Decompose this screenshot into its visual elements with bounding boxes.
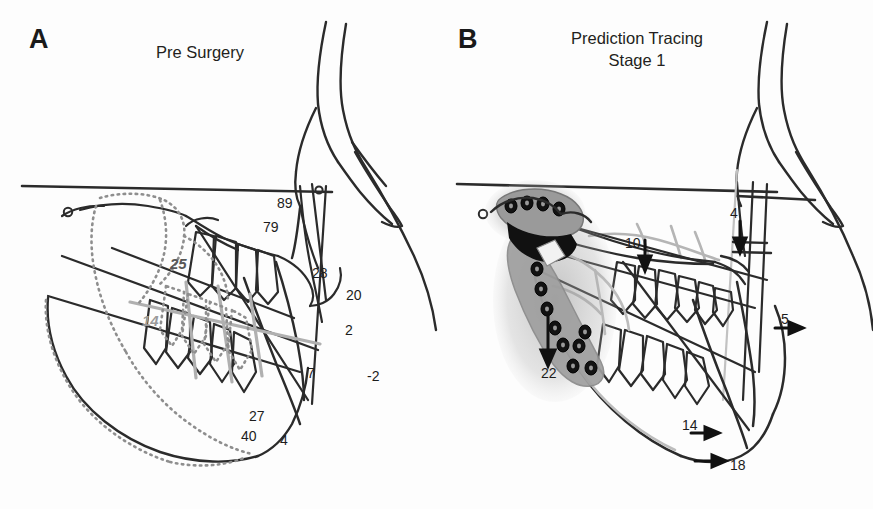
measurement-label: 20 — [346, 288, 362, 302]
measurement-label: 22 — [541, 366, 557, 380]
measurement-label: 25 — [170, 256, 187, 271]
measurement-label: 5 — [781, 312, 789, 326]
panel-b-tracing — [437, 0, 873, 509]
measurement-label: 14 — [142, 313, 159, 328]
figure-caption — [22, 497, 26, 508]
panel-b: B Prediction TracingStage 1 — [437, 0, 873, 509]
measurement-label: 28 — [312, 266, 328, 280]
figure-root: A Pre Surgery — [0, 0, 873, 509]
panel-a-tracing — [0, 0, 437, 509]
measurement-label: 2 — [345, 323, 353, 337]
measurement-label: 27 — [249, 409, 265, 423]
panel-a: A Pre Surgery — [0, 0, 437, 509]
measurement-label: 10 — [625, 236, 641, 250]
measurement-label: 40 — [241, 429, 257, 443]
measurement-label: 79 — [263, 220, 279, 234]
measurement-label: 89 — [277, 196, 293, 210]
measurement-label: 4 — [730, 206, 738, 220]
measurement-label: 7 — [307, 366, 315, 380]
measurement-label: 4 — [280, 433, 288, 447]
measurement-label: 18 — [730, 458, 746, 472]
figure-caption-strip — [0, 497, 873, 509]
measurement-label: 14 — [682, 418, 698, 432]
measurement-label: -2 — [367, 369, 379, 383]
